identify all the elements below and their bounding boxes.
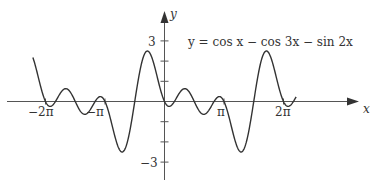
x-axis-arrow-icon xyxy=(347,98,359,106)
x-tick-label-2pi: 2π xyxy=(275,105,291,119)
x-tick-label-negpi: −π xyxy=(86,105,104,119)
y-tick-label-neg3: −3 xyxy=(140,156,158,170)
function-graph: y x 3 −3 −2π −π π 2π y = cos x − cos 3x … xyxy=(0,0,379,185)
y-axis-arrow-icon xyxy=(161,11,169,23)
y-tick-label-3: 3 xyxy=(148,35,156,49)
x-axis-label: x xyxy=(363,102,370,116)
x-tick-label-neg2pi: −2π xyxy=(28,105,54,119)
y-axis-label: y xyxy=(169,7,177,21)
x-tick-label-pi: π xyxy=(217,105,225,119)
equation-label: y = cos x − cos 3x − sin 2x xyxy=(187,35,353,49)
